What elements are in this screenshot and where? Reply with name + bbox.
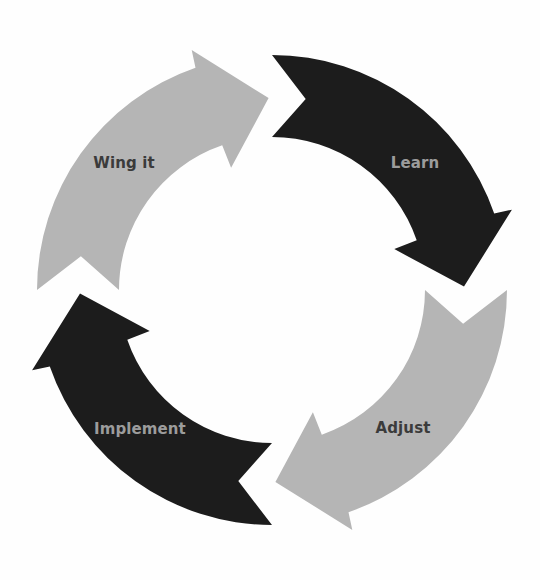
cycle-diagram: Wing it Learn Adjust Implement (0, 0, 540, 580)
step-label-learn: Learn (391, 154, 439, 172)
curved-arrow-icon (32, 293, 272, 525)
step-label-implement: Implement (94, 420, 186, 438)
curved-arrow-icon (275, 290, 507, 530)
cycle-step-learn: Learn (272, 55, 512, 287)
step-label-adjust: Adjust (376, 419, 431, 437)
diagram-canvas: Wing it Learn Adjust Implement (0, 0, 540, 580)
cycle-step-wing-it: Wing it (37, 50, 269, 290)
cycle-step-adjust: Adjust (275, 290, 507, 530)
cycle-step-implement: Implement (32, 293, 272, 525)
step-label-wing-it: Wing it (93, 154, 154, 172)
